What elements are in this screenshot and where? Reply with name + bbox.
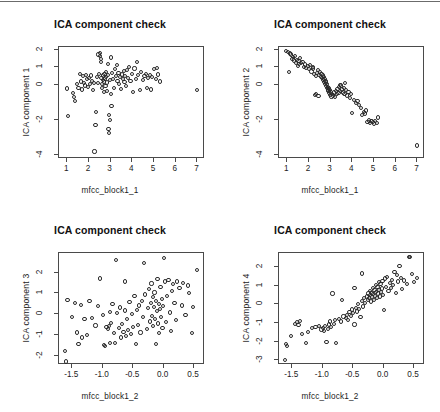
data-point: [186, 283, 190, 287]
y-axis-tick-label: 0: [254, 293, 266, 313]
data-point: [103, 344, 107, 348]
data-point: [109, 104, 113, 108]
y-axis-tick-label: 0: [34, 303, 46, 323]
data-point: [415, 276, 419, 280]
data-point: [108, 341, 112, 345]
data-point: [166, 278, 170, 282]
data-point: [147, 287, 151, 291]
plot-area: [278, 46, 424, 158]
data-point: [109, 55, 113, 59]
data-point: [75, 330, 79, 334]
x-axis-tick: [131, 158, 132, 162]
data-point: [285, 344, 289, 348]
data-point: [156, 321, 160, 325]
data-point: [65, 298, 69, 302]
plot-area: [58, 46, 204, 158]
y-axis-tick: [54, 49, 58, 50]
data-point: [99, 60, 103, 64]
data-point: [364, 108, 368, 112]
x-axis-tick: [416, 158, 417, 162]
data-point: [152, 290, 156, 294]
x-axis-tick-label: 7: [396, 164, 436, 173]
y-axis-tick-label: 0: [34, 74, 46, 94]
data-point: [128, 79, 132, 83]
y-axis-tick: [274, 84, 278, 85]
x-axis-tick: [193, 364, 194, 368]
y-axis-tick-label: -2: [254, 331, 266, 351]
data-point: [142, 261, 146, 265]
data-point: [361, 304, 365, 308]
x-axis-tick: [373, 158, 374, 162]
data-point: [391, 283, 395, 287]
data-point: [96, 52, 100, 56]
y-axis-tick-label: -3: [254, 349, 266, 369]
x-axis-tick: [330, 158, 331, 162]
y-axis-tick: [274, 322, 278, 323]
data-point: [132, 66, 136, 70]
data-point: [314, 74, 318, 78]
data-point: [304, 341, 308, 345]
data-point: [130, 72, 134, 76]
data-point: [169, 329, 173, 333]
data-point: [164, 320, 168, 324]
data-point: [149, 87, 153, 91]
data-point: [112, 86, 116, 90]
data-point: [129, 332, 133, 336]
x-axis-tick: [163, 364, 164, 368]
y-axis-tick-label: 2: [34, 262, 46, 282]
data-point: [352, 322, 356, 326]
y-axis-label: ICA component 3: [20, 252, 32, 364]
data-point: [316, 94, 320, 98]
data-point: [396, 279, 400, 283]
data-point: [93, 123, 97, 127]
x-axis-tick: [66, 158, 67, 162]
x-axis-tick: [352, 364, 353, 368]
data-point: [352, 286, 356, 290]
data-point: [330, 291, 334, 295]
data-point: [183, 313, 187, 317]
data-point: [158, 285, 162, 289]
data-point: [143, 292, 147, 296]
data-point: [123, 279, 127, 283]
y-axis-tick: [274, 49, 278, 50]
data-point: [300, 332, 304, 336]
data-point: [191, 305, 195, 309]
y-axis-tick-label: -1: [254, 312, 266, 332]
data-point: [120, 322, 124, 326]
scatter-panel-2: ICA component check1234567210-2-4mfcc_bl…: [220, 0, 440, 206]
data-point: [73, 301, 77, 305]
data-point: [394, 291, 398, 295]
data-point: [107, 131, 111, 135]
y-axis-tick-label: -2: [34, 109, 46, 129]
y-axis-label: ICA component 4: [240, 252, 252, 364]
y-axis-tick: [274, 359, 278, 360]
x-axis-tick-label: 0.5: [393, 370, 433, 379]
panel-title: ICA component check: [220, 18, 440, 30]
x-axis-tick-label: 0.5: [173, 370, 213, 379]
data-point: [160, 297, 164, 301]
data-point: [397, 264, 401, 268]
data-point: [125, 317, 129, 321]
data-point: [180, 303, 184, 307]
y-axis-tick: [54, 66, 58, 67]
data-point: [107, 113, 111, 117]
data-point: [141, 315, 145, 319]
data-point: [106, 62, 110, 66]
x-axis-tick: [351, 158, 352, 162]
y-axis-tick-label: 0: [254, 74, 266, 94]
data-point: [151, 324, 155, 328]
data-point: [381, 293, 385, 297]
data-point: [85, 333, 89, 337]
data-point: [155, 66, 159, 70]
y-axis-tick-label: -2: [34, 345, 46, 365]
data-point: [119, 335, 123, 339]
x-axis-tick: [71, 364, 72, 368]
x-axis-tick: [175, 158, 176, 162]
x-axis-label: mfcc_block1_2: [0, 392, 220, 401]
data-point: [136, 323, 140, 327]
plot-area: [58, 252, 204, 364]
panel-title: ICA component check: [0, 224, 220, 236]
data-point: [332, 322, 336, 326]
data-point: [109, 92, 113, 96]
x-axis-label: mfcc_block1_2: [220, 392, 440, 401]
